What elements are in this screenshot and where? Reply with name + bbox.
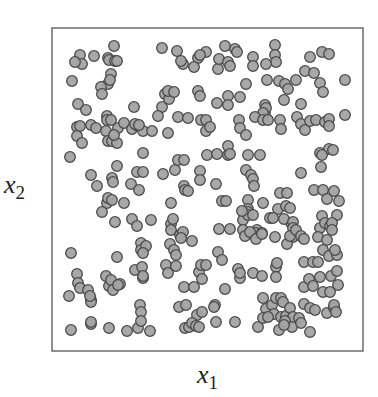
data-point	[106, 115, 117, 126]
data-point	[331, 307, 342, 318]
data-point	[86, 170, 97, 181]
data-point	[325, 287, 336, 298]
data-point	[225, 224, 236, 235]
data-point	[328, 145, 339, 156]
data-point	[308, 281, 319, 292]
data-point	[179, 282, 190, 293]
data-point	[197, 307, 208, 318]
data-point	[299, 234, 310, 245]
data-point	[64, 291, 75, 302]
data-point	[112, 56, 123, 67]
data-point	[170, 165, 181, 176]
data-point	[235, 92, 246, 103]
data-point	[195, 50, 206, 61]
y-axis-label-subscript: 2	[16, 182, 26, 203]
data-point	[217, 255, 228, 266]
data-point	[70, 57, 81, 68]
data-point	[172, 46, 183, 57]
data-point	[322, 235, 333, 246]
data-point	[138, 148, 149, 159]
data-point	[173, 112, 184, 123]
data-point	[263, 312, 274, 323]
data-point	[91, 123, 102, 134]
data-point	[322, 194, 333, 205]
data-point	[109, 41, 120, 52]
data-point	[97, 89, 108, 100]
data-point	[225, 61, 236, 72]
data-point	[109, 130, 120, 141]
data-point	[330, 245, 341, 256]
data-point	[108, 177, 119, 188]
data-point	[255, 150, 266, 161]
data-point	[171, 250, 182, 261]
data-point	[263, 115, 274, 126]
data-point	[237, 206, 248, 217]
data-point	[230, 317, 241, 328]
data-point	[179, 155, 190, 166]
data-point	[157, 43, 168, 54]
data-point	[309, 68, 320, 79]
data-point	[113, 280, 124, 291]
data-point	[122, 326, 133, 337]
data-point	[197, 274, 208, 285]
data-point	[285, 203, 296, 214]
data-point	[86, 317, 97, 328]
data-point	[181, 300, 192, 311]
data-point	[241, 130, 252, 141]
data-point	[296, 168, 307, 179]
data-point	[187, 236, 198, 247]
data-point	[171, 261, 182, 272]
data-point	[223, 100, 234, 111]
data-point	[209, 302, 220, 313]
data-point	[271, 272, 282, 283]
data-point	[282, 188, 293, 199]
data-point	[194, 322, 205, 333]
data-point	[104, 323, 115, 334]
data-point	[258, 293, 269, 304]
x-axis-label-base: x	[197, 360, 209, 389]
data-point	[257, 229, 268, 240]
data-point	[271, 57, 282, 68]
data-point	[136, 316, 147, 327]
data-point	[268, 213, 279, 224]
data-point	[305, 52, 316, 63]
data-point	[221, 196, 232, 207]
data-point	[241, 79, 252, 90]
data-point	[97, 207, 108, 218]
data-point	[163, 128, 174, 139]
data-point	[235, 268, 246, 279]
data-point	[332, 266, 343, 277]
data-point	[201, 260, 212, 271]
data-point	[146, 215, 157, 226]
data-point	[262, 75, 273, 86]
data-point	[315, 272, 326, 283]
data-point	[220, 41, 231, 52]
data-point	[169, 87, 180, 98]
data-point	[334, 196, 345, 207]
data-point	[110, 217, 121, 228]
data-point	[211, 317, 222, 328]
data-point	[270, 40, 281, 51]
data-point	[81, 105, 92, 116]
data-point	[214, 224, 225, 235]
data-point	[317, 150, 328, 161]
data-point	[195, 91, 206, 102]
data-point	[189, 62, 200, 73]
data-point	[313, 257, 324, 268]
data-point	[132, 221, 143, 232]
data-point	[138, 248, 149, 259]
data-point	[310, 305, 321, 316]
data-point	[258, 198, 269, 209]
data-point	[291, 75, 302, 86]
data-point	[105, 75, 116, 86]
data-point	[65, 152, 76, 163]
y-axis-label-base: x	[4, 170, 16, 199]
data-point	[225, 149, 236, 160]
data-point	[77, 138, 88, 149]
data-point	[166, 198, 177, 209]
data-point	[272, 258, 283, 269]
data-point	[134, 120, 145, 131]
data-point	[176, 56, 187, 67]
data-point	[189, 282, 200, 293]
data-point	[145, 326, 156, 337]
